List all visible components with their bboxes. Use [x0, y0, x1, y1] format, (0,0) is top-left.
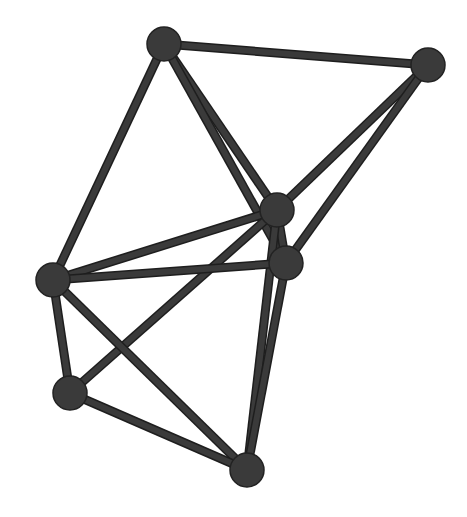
network-graph — [0, 0, 467, 517]
node-B — [411, 48, 445, 82]
edge-E-G — [53, 280, 247, 470]
edge-line — [53, 44, 164, 280]
node-D — [269, 246, 303, 280]
edges-layer — [53, 44, 428, 470]
edge-line — [70, 210, 277, 393]
edge-line — [277, 65, 428, 210]
edge-B-D — [286, 65, 428, 263]
edge-line — [70, 393, 247, 470]
edge-line — [53, 280, 247, 470]
nodes-layer — [36, 27, 445, 487]
edge-B-C — [277, 65, 428, 210]
node-G — [230, 453, 264, 487]
edge-A-B — [164, 44, 428, 65]
node-A — [147, 27, 181, 61]
edge-line — [164, 44, 428, 65]
edge-F-G — [70, 393, 247, 470]
node-C — [260, 193, 294, 227]
node-F — [53, 376, 87, 410]
node-E — [36, 263, 70, 297]
edge-C-F — [70, 210, 277, 393]
edge-A-E — [53, 44, 164, 280]
edge-line — [286, 65, 428, 263]
